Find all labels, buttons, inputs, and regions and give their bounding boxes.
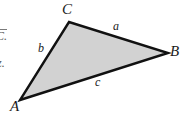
triangle-drawing bbox=[0, 0, 182, 116]
triangle-figure: C B A a b c C. z. bbox=[0, 0, 182, 116]
triangle-shape bbox=[20, 22, 168, 100]
margin-text-fragment-top: C. bbox=[0, 29, 7, 42]
vertex-label-c: C bbox=[62, 2, 72, 17]
side-label-c: c bbox=[95, 76, 100, 88]
side-label-b: b bbox=[38, 42, 44, 54]
side-label-a: a bbox=[113, 20, 119, 32]
margin-text-fragment-bottom: z. bbox=[0, 57, 5, 69]
vertex-label-a: A bbox=[10, 99, 19, 114]
margin-fragment-top-text: C. bbox=[0, 29, 7, 42]
vertex-label-b: B bbox=[170, 44, 179, 59]
